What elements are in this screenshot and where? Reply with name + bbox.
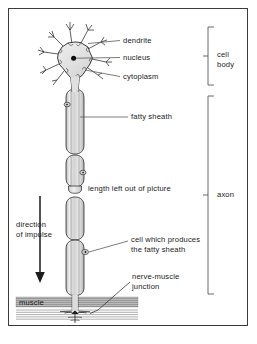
label-direction-line1: direction [16, 220, 46, 230]
bracket-label-cell-body-line1: cell [217, 50, 229, 60]
label-fatty-sheath: fatty sheath [131, 112, 172, 122]
label-junction-line1: nerve-muscle [132, 272, 179, 282]
label-cytoplasm: cytoplasm [123, 72, 159, 82]
label-direction-line2: of impulse [16, 230, 52, 240]
bracket-label-axon: axon [217, 190, 234, 200]
cell-body-soma [38, 22, 112, 90]
myelin-stub [69, 186, 82, 193]
label-nucleus: nucleus [123, 53, 150, 63]
figure-canvas: dendrite nucleus cytoplasm fatty sheath … [0, 0, 257, 344]
label-length-left-out: length left out of picture [88, 184, 171, 194]
label-muscle: muscle [19, 298, 44, 308]
leader-cytoplasm [85, 70, 120, 77]
label-schwann-line1: cell which produces [131, 235, 200, 245]
bracket-label-cell-body-line2: body [217, 60, 234, 70]
axon-myelin-sheath [64, 78, 88, 296]
label-schwann-line2: the fatty sheath [131, 245, 185, 255]
myelin-segment-4 [66, 240, 89, 296]
myelin-segment-1 [64, 89, 84, 154]
label-junction-line2: junction [132, 282, 159, 292]
myelin-segment-2 [66, 155, 86, 187]
bracket-axon [203, 96, 214, 294]
myelin-segment-3 [66, 197, 84, 240]
nucleus-dot [71, 56, 76, 61]
bracket-cell-body [203, 27, 214, 85]
leader-schwann-cell [89, 241, 128, 252]
label-dendrite: dendrite [123, 36, 152, 46]
